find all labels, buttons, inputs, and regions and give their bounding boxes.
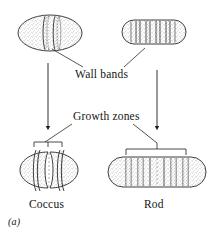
wall-bands-label: Wall bands (75, 68, 128, 80)
panel-label: (a) (8, 216, 20, 227)
coccus-growth-bracket (34, 142, 62, 147)
rod-daughter-cell (108, 157, 206, 187)
coccus-parent-cell (18, 15, 82, 51)
rod-label: Rod (144, 198, 164, 210)
rod-growth-bracket (126, 143, 186, 155)
coccus-label: Coccus (29, 198, 64, 210)
growth-zones-leader-lines (45, 124, 157, 143)
wall-bands-leader-lines (52, 48, 145, 67)
rod-parent-cell (122, 20, 186, 44)
wall-bands-leader-right (124, 48, 145, 67)
growth-zones-leader-right (133, 124, 157, 143)
growth-zones-label: Growth zones (73, 110, 140, 122)
coccus-daughter-cell (20, 150, 78, 191)
wall-bands-leader-left (52, 49, 83, 67)
growth-zones-leader-left (45, 124, 72, 142)
